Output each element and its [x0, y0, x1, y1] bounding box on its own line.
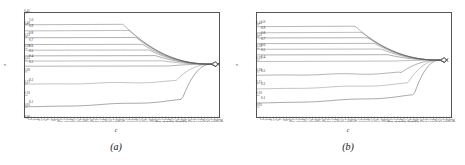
curve-label-0-4: 0.4	[261, 56, 265, 59]
curve-label-1-0: 1.0	[261, 21, 265, 24]
curve-label-0-2: 0.2	[29, 79, 33, 82]
curve-label-0-7: 0.7	[261, 38, 265, 41]
curve-1-0	[257, 26, 448, 61]
plot-area-b	[256, 12, 452, 118]
curve-label-0-3: 0.3	[29, 61, 33, 64]
curve-0-6	[257, 49, 448, 61]
curve-label-0-9: 0.9	[29, 26, 33, 29]
x-axis-label-b: c	[232, 127, 464, 133]
x-tick-label: 60	[221, 119, 224, 122]
curve-label-0-1: 0.1	[29, 101, 33, 104]
curves-svg-b	[257, 13, 453, 119]
caption-a: (a)	[0, 141, 232, 152]
plot-area-a	[24, 12, 220, 118]
curve-0-8	[25, 38, 219, 66]
curve-0-9	[257, 32, 448, 62]
y-axis-label-a: ε	[2, 64, 7, 66]
y-axis-label-b: ε	[234, 64, 239, 66]
curve-label-0-4: 0.4	[29, 56, 33, 59]
x-tick-label: 60	[453, 119, 456, 122]
curve-0-2	[25, 62, 219, 84]
panel-b: ε 0.050.100.150.200.250.300.350.40 12345…	[232, 0, 464, 165]
curve-0-2	[257, 58, 448, 89]
curve-label-0-8: 0.8	[29, 32, 33, 35]
curve-label-0-9: 0.9	[261, 27, 265, 30]
curve-label-0-6: 0.6	[261, 44, 265, 47]
curve-label-0-3: 0.3	[261, 70, 265, 73]
panel-a: ε 0.000.050.100.150.200.250.300.350.400.…	[0, 0, 232, 165]
curve-0-4	[257, 58, 448, 62]
figure-two-panel: ε 0.000.050.100.150.200.250.300.350.400.…	[0, 0, 465, 165]
x-axis-label-a: c	[0, 127, 232, 133]
curve-label-0-7: 0.7	[29, 39, 33, 42]
curve-label-0-1: 0.1	[261, 98, 265, 101]
curve-label-0-8: 0.8	[261, 33, 265, 36]
curve-0-1	[257, 59, 448, 103]
curve-label-0-6: 0.6	[29, 45, 33, 48]
curve-label-0-5: 0.5	[29, 51, 33, 54]
curve-label-0-5: 0.5	[261, 50, 265, 53]
caption-b: (b)	[232, 141, 464, 152]
curve-label-1-0: 1.0	[29, 19, 33, 22]
curve-0-8	[257, 38, 448, 62]
curves-svg-a	[25, 13, 221, 119]
curve-label-0-2: 0.2	[261, 84, 265, 87]
